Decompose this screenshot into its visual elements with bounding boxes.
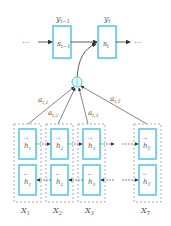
svg-text:XT: XT	[140, 206, 151, 216]
svg-text:X2: X2	[52, 206, 62, 216]
svg-text:→: →	[143, 135, 147, 141]
svg-text:at,3: at,3	[88, 109, 98, 118]
decoder-left-ellipsis: ···	[22, 38, 30, 47]
svg-text:←: ←	[88, 171, 92, 177]
svg-text:←: ←	[143, 171, 147, 177]
svg-text:at,1: at,1	[38, 96, 48, 105]
svg-text:→: →	[88, 135, 92, 141]
svg-text:yt−1: yt−1	[55, 14, 70, 24]
svg-text:X3: X3	[84, 206, 94, 216]
decoder-state-prev	[53, 26, 71, 58]
svg-text:←: ←	[56, 171, 60, 177]
attention-diagram: ··· st−1 yt−1 st yt ··· at,1 at,2 at,3 a…	[0, 0, 171, 226]
svg-text:yt: yt	[103, 14, 112, 24]
encoder-column-T: hT hT XT	[134, 124, 161, 216]
svg-text:→: →	[24, 135, 28, 141]
svg-text:→: →	[56, 135, 60, 141]
svg-text:at,T: at,T	[110, 95, 121, 104]
svg-text:at,2: at,2	[48, 109, 58, 118]
svg-text:←: ←	[24, 171, 28, 177]
decoder-right-ellipsis: ···	[134, 38, 142, 47]
svg-text:X1: X1	[20, 206, 30, 216]
